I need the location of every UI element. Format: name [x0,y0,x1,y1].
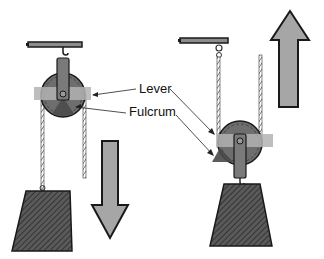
left-pulley-system [12,42,128,251]
left-weight [12,191,72,251]
down-arrow-icon [92,141,128,238]
fulcrum-leader-right [176,115,213,155]
label-leaders [75,89,215,156]
right-top-shackle [216,45,222,58]
right-ceiling-beam [178,38,228,43]
left-rope-load [41,95,44,190]
right-weight [210,184,272,246]
left-axle [60,91,66,97]
lever-label: Lever [139,82,172,95]
pulley-lever-diagram [0,0,324,259]
left-ceiling-beam [26,42,82,47]
fulcrum-label: Fulcrum [129,105,176,118]
right-pulley-system [178,11,309,246]
lever-leader-left [93,89,136,95]
right-axle [237,138,243,144]
left-hook [63,47,68,55]
lever-leader-right [170,89,214,134]
up-arrow-icon [271,11,309,107]
left-rope-pull [83,95,86,178]
